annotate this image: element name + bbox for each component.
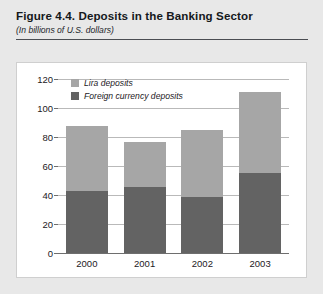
x-axis-tick-label: 2002 xyxy=(173,258,231,269)
legend-swatch-icon xyxy=(71,79,79,87)
y-axis-tick-label: 40 xyxy=(42,190,53,201)
y-axis-tick-mark xyxy=(54,108,58,109)
y-axis-tick-label: 80 xyxy=(42,132,53,143)
x-axis-tick-label: 2000 xyxy=(58,258,116,269)
y-axis-tick-label: 60 xyxy=(42,161,53,172)
y-axis-tick-mark xyxy=(54,166,58,167)
y-axis-tick-label: 20 xyxy=(42,219,53,230)
legend-item-foreign-currency-deposits: Foreign currency deposits xyxy=(71,90,183,102)
legend-label: Lira deposits xyxy=(84,78,133,88)
bar-segment-foreign-currency-deposits[interactable] xyxy=(66,191,108,253)
y-axis-tick-mark xyxy=(54,79,58,80)
figure-subtitle: (In billions of U.S. dollars) xyxy=(16,24,308,36)
y-axis-tick-mark xyxy=(54,253,58,254)
bar-segment-foreign-currency-deposits[interactable] xyxy=(181,197,223,253)
legend-label: Foreign currency deposits xyxy=(84,91,183,101)
plot-area: 0204060801001202000200120022003 xyxy=(58,79,289,253)
y-axis-tick-label: 100 xyxy=(37,103,53,114)
bar-segment-lira-deposits[interactable] xyxy=(239,92,281,173)
legend-swatch-icon xyxy=(71,92,79,100)
y-axis-tick-label: 120 xyxy=(37,74,53,85)
bar-segment-foreign-currency-deposits[interactable] xyxy=(124,187,166,253)
y-axis-tick-label: 0 xyxy=(48,248,53,259)
title-divider xyxy=(16,39,308,40)
bar-segment-lira-deposits[interactable] xyxy=(66,126,108,191)
y-axis-tick-mark xyxy=(54,224,58,225)
bar-segment-foreign-currency-deposits[interactable] xyxy=(239,173,281,253)
y-axis-tick-mark xyxy=(54,137,58,138)
chart-panel: 0204060801001202000200120022003 Lira dep… xyxy=(16,62,307,278)
axis-baseline xyxy=(58,253,289,254)
bar-segment-lira-deposits[interactable] xyxy=(124,142,166,187)
x-axis-tick-label: 2003 xyxy=(231,258,289,269)
y-axis-tick-mark xyxy=(54,195,58,196)
page-title: Figure 4.4. Deposits in the Banking Sect… xyxy=(16,8,308,23)
x-axis-tick-label: 2001 xyxy=(116,258,174,269)
chart-legend: Lira deposits Foreign currency deposits xyxy=(71,77,183,103)
figure-header: Figure 4.4. Deposits in the Banking Sect… xyxy=(16,8,308,40)
legend-item-lira-deposits: Lira deposits xyxy=(71,77,183,89)
figure-container: Figure 4.4. Deposits in the Banking Sect… xyxy=(0,0,323,294)
bar-segment-lira-deposits[interactable] xyxy=(181,130,223,197)
